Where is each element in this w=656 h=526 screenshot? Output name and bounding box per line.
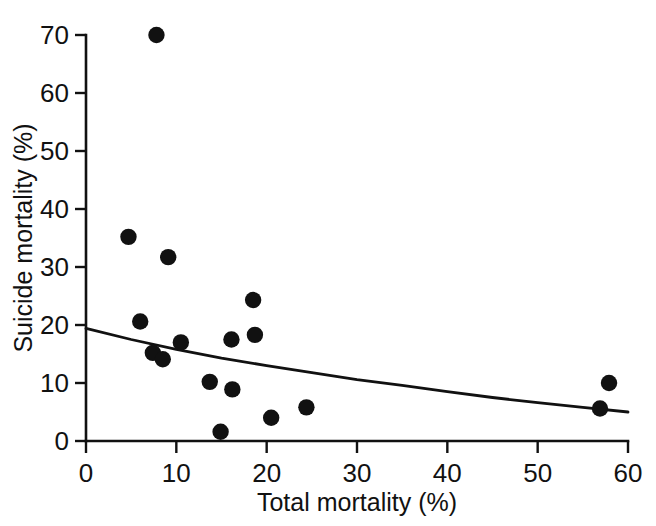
x-tick-label: 0	[79, 458, 93, 488]
y-tick-label: 70	[40, 20, 69, 50]
x-axis-ticks	[86, 441, 628, 453]
x-tick-label: 50	[523, 458, 552, 488]
data-point	[173, 334, 189, 350]
x-tick-label: 10	[162, 458, 191, 488]
data-points-group	[120, 27, 617, 440]
data-point	[155, 351, 171, 367]
x-axis-title: Total mortality (%)	[257, 488, 457, 516]
fitted-regression-curve	[86, 328, 628, 412]
y-tick-label: 20	[40, 310, 69, 340]
data-point	[245, 292, 261, 308]
data-point	[298, 399, 314, 415]
y-tick-label: 10	[40, 368, 69, 398]
data-point	[224, 381, 240, 397]
y-axis-ticks	[75, 35, 86, 441]
x-tick-label: 40	[433, 458, 462, 488]
data-point	[202, 374, 218, 390]
data-point	[160, 249, 176, 265]
y-axis-tick-labels: 010203040506070	[40, 20, 69, 456]
data-point	[132, 313, 148, 329]
y-tick-label: 30	[40, 252, 69, 282]
x-tick-label: 20	[252, 458, 281, 488]
y-axis-title: Suicide mortality (%)	[9, 123, 37, 352]
y-tick-label: 0	[55, 426, 69, 456]
data-point	[592, 400, 608, 416]
scatter-plot-figure: 010203040506070 0102030405060 Total mort…	[0, 0, 656, 526]
plot-canvas: 010203040506070 0102030405060 Total mort…	[0, 0, 656, 526]
data-point	[212, 424, 228, 440]
x-tick-label: 60	[614, 458, 643, 488]
y-tick-label: 50	[40, 136, 69, 166]
data-point	[120, 229, 136, 245]
data-point	[247, 327, 263, 343]
data-point	[601, 375, 617, 391]
y-tick-label: 40	[40, 194, 69, 224]
y-tick-label: 60	[40, 78, 69, 108]
data-point	[148, 27, 164, 43]
x-tick-label: 30	[343, 458, 372, 488]
data-point	[263, 410, 279, 426]
data-point	[223, 331, 239, 347]
x-axis-tick-labels: 0102030405060	[79, 458, 643, 488]
